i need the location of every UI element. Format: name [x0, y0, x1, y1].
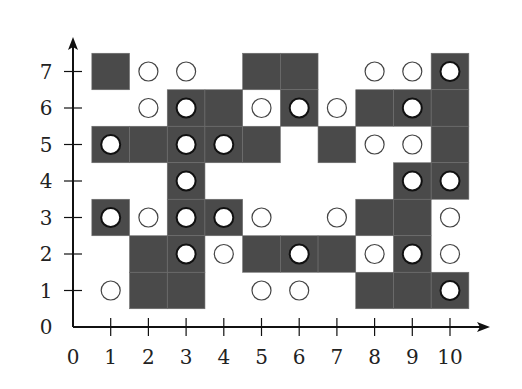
y-tick-label: 7 [40, 60, 53, 84]
dark-cell [92, 53, 130, 90]
white-disk-icon [441, 172, 460, 191]
open-circle-icon [214, 245, 233, 264]
x-tick-label: 6 [293, 345, 306, 369]
y-tick-label: 4 [40, 169, 53, 193]
dark-cell [243, 53, 281, 90]
open-circle-icon [252, 281, 271, 300]
x-tick-label: 2 [142, 345, 155, 369]
open-circle-icon [441, 245, 460, 264]
y-tick-label: 6 [40, 96, 53, 120]
x-tick-label: 1 [104, 345, 117, 369]
dark-cell [205, 90, 243, 127]
dark-cell [393, 199, 431, 236]
y-tick-label: 2 [40, 242, 53, 266]
dark-cell [280, 53, 318, 90]
open-circle-icon [139, 62, 158, 81]
dark-cell [431, 90, 469, 127]
open-circle-icon [177, 62, 196, 81]
dark-cell [130, 236, 168, 273]
open-circle-icon [327, 99, 346, 118]
open-circle-icon [327, 208, 346, 227]
white-disk-icon [214, 208, 233, 227]
y-tick-label: 5 [40, 133, 53, 157]
y-tick-label: 1 [40, 279, 53, 303]
open-circle-icon [290, 281, 309, 300]
dark-cell [130, 272, 168, 309]
dark-cell [393, 272, 431, 309]
dark-cell [318, 236, 356, 273]
white-disk-icon [101, 135, 120, 154]
dark-cell [130, 126, 168, 163]
open-circle-icon [365, 62, 384, 81]
x-tick-label: 4 [217, 345, 230, 369]
x-tick-label: 5 [255, 345, 268, 369]
open-circle-icon [139, 208, 158, 227]
x-tick-label: 0 [67, 345, 80, 369]
x-tick-label: 3 [180, 345, 193, 369]
open-circle-icon [441, 208, 460, 227]
dark-cell [356, 199, 394, 236]
white-disk-icon [441, 62, 460, 81]
y-axis-ticks: 01234567 [40, 60, 82, 340]
white-disk-icon [403, 245, 422, 264]
x-tick-label: 9 [406, 345, 419, 369]
dark-cell [167, 272, 205, 309]
white-disk-icon [177, 99, 196, 118]
x-axis-ticks: 012345678910 [67, 318, 463, 369]
x-tick-label: 7 [331, 345, 344, 369]
y-tick-label: 0 [40, 315, 53, 339]
open-circle-icon [101, 281, 120, 300]
white-disk-icon [101, 208, 120, 227]
white-disk-icon [177, 245, 196, 264]
dark-cell [243, 236, 281, 273]
white-disk-icon [403, 99, 422, 118]
open-circle-icon [139, 99, 158, 118]
white-disk-icon [290, 245, 309, 264]
y-tick-label: 3 [40, 206, 53, 230]
x-tick-label: 10 [437, 345, 462, 369]
white-disk-icon [403, 172, 422, 191]
white-disk-icon [441, 281, 460, 300]
dark-cell [356, 272, 394, 309]
dark-cell [356, 90, 394, 127]
white-disk-icon [177, 135, 196, 154]
open-circle-icon [252, 99, 271, 118]
grid-diagram: 012345678910 01234567 [0, 0, 522, 389]
white-disk-icon [177, 172, 196, 191]
open-circle-icon [365, 245, 384, 264]
dark-cell [431, 126, 469, 163]
white-disk-icon [177, 208, 196, 227]
open-circle-icon [365, 135, 384, 154]
dark-cell [318, 126, 356, 163]
open-circle-icon [252, 208, 271, 227]
dark-cell [243, 126, 281, 163]
open-circle-icon [403, 135, 422, 154]
white-disk-icon [290, 99, 309, 118]
open-circle-icon [403, 62, 422, 81]
x-tick-label: 8 [368, 345, 381, 369]
white-disk-icon [214, 135, 233, 154]
